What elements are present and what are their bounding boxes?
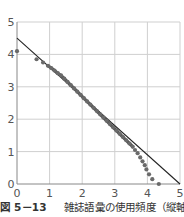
y-tick-label: 5 [8, 16, 15, 29]
data-point [95, 109, 99, 113]
data-point [108, 122, 112, 126]
data-point [85, 99, 89, 103]
data-point [138, 155, 142, 159]
data-point [114, 128, 118, 132]
grid-lines [17, 22, 180, 184]
data-point [82, 96, 86, 100]
data-point [124, 138, 128, 142]
scatter-chart: 012345012345 [0, 0, 184, 200]
data-point [121, 135, 125, 139]
data-point [69, 83, 73, 87]
data-point [88, 103, 92, 107]
data-point [41, 60, 45, 64]
y-tick-label: 2 [8, 113, 15, 126]
data-point [34, 57, 38, 61]
data-point [144, 167, 148, 171]
data-point [147, 172, 151, 176]
figure-caption: 図 5－13 雑誌語彙の使用頻度（縦軸）と [0, 199, 184, 214]
data-point [143, 163, 147, 167]
axes [17, 22, 180, 184]
figure-label: 図 5－13 [0, 201, 47, 213]
data-points [15, 49, 161, 186]
data-point [118, 132, 122, 136]
data-point [133, 148, 137, 152]
data-point [105, 119, 109, 123]
data-point [127, 141, 131, 145]
data-point [78, 93, 82, 97]
data-point [150, 177, 154, 181]
data-point [65, 80, 69, 84]
data-point [98, 112, 102, 116]
y-tick-label: 0 [8, 178, 15, 191]
data-point [157, 182, 161, 186]
caption-text: 雑誌語彙の使用頻度（縦軸）と [64, 201, 184, 213]
data-point [92, 106, 96, 110]
data-point [101, 115, 105, 119]
y-tick-label: 3 [8, 81, 15, 94]
data-point [111, 125, 115, 129]
data-point [49, 66, 53, 70]
data-point [59, 73, 63, 77]
data-point [140, 159, 144, 163]
data-point [75, 90, 79, 94]
y-tick-label: 1 [8, 146, 15, 159]
data-point [136, 151, 140, 155]
data-point [52, 69, 56, 73]
data-point [15, 49, 19, 53]
data-point [72, 86, 76, 90]
y-tick-label: 4 [8, 48, 15, 61]
data-point [62, 77, 66, 81]
